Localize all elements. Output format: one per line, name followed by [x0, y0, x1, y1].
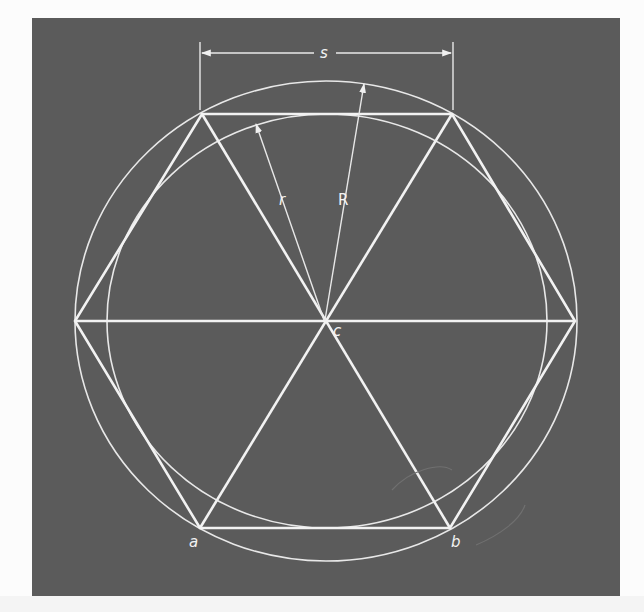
vertex-a-label: a [189, 533, 198, 551]
center-label: c [333, 322, 342, 340]
vertex-b-label: b [451, 533, 461, 551]
page-margin [0, 596, 644, 612]
hexagon-diagonals [75, 114, 575, 528]
inner-radius-label: r [279, 191, 286, 209]
side-label: s [320, 44, 328, 62]
hexagon-diagram: s r R c a b [0, 0, 644, 612]
outer-radius-label: R [338, 191, 348, 209]
